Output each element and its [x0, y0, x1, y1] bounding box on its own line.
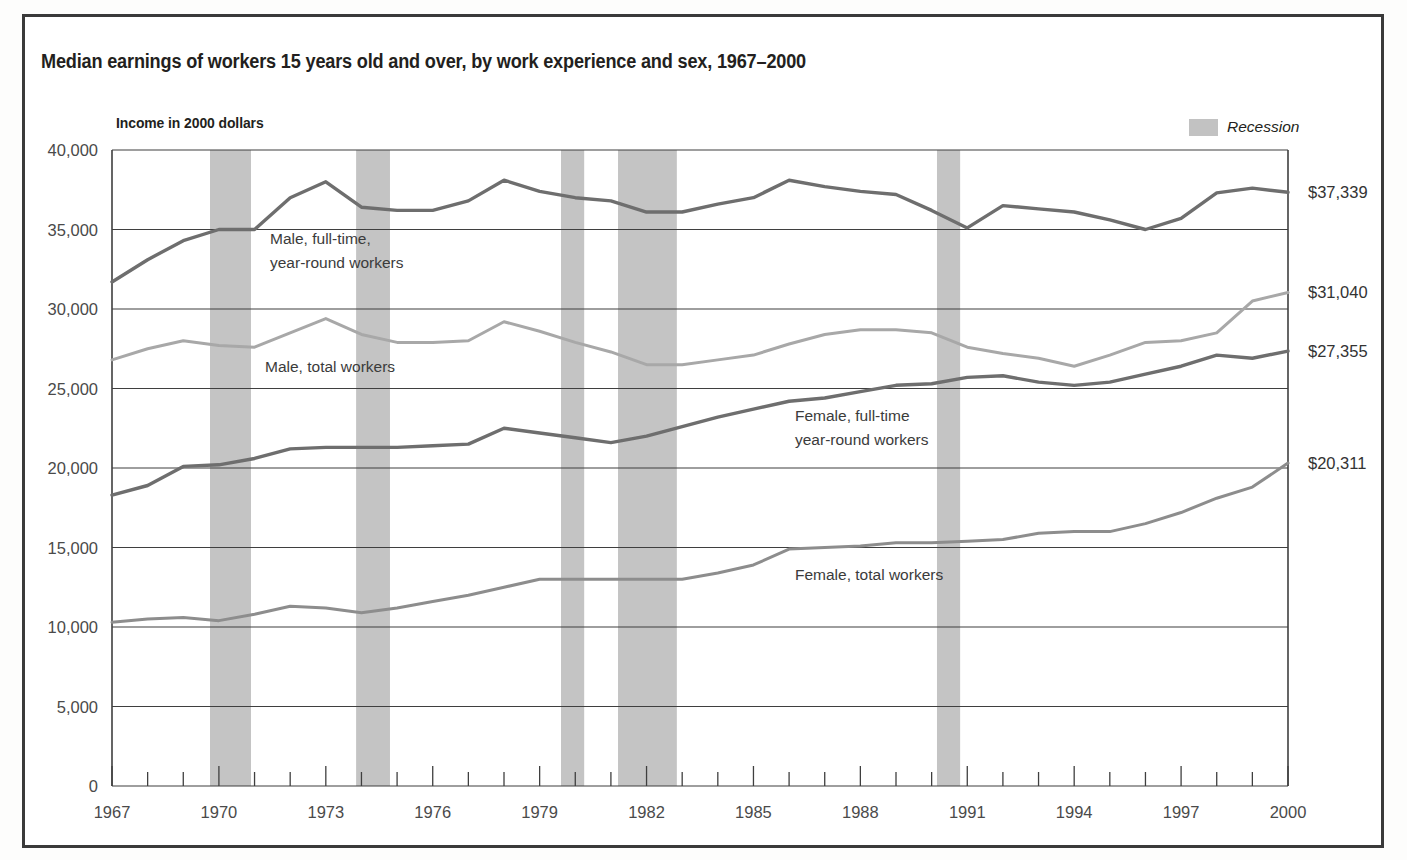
y-axis-labels: 40,00035,00030,00025,00020,00015,00010,0… [48, 141, 98, 795]
x-axis-tick-label: 2000 [1270, 803, 1307, 821]
x-axis-tick-label: 1979 [521, 803, 558, 821]
x-axis-tick-label: 1994 [1056, 803, 1093, 821]
y-axis-tick-label: 10,000 [48, 618, 98, 636]
x-axis-tick-label: 1982 [628, 803, 665, 821]
earnings-line-chart: 40,00035,00030,00025,00020,00015,00010,0… [0, 0, 1407, 860]
series-end-value-label: $27,355 [1308, 342, 1368, 360]
x-tickmarks [112, 766, 1288, 786]
x-axis-tick-label: 1973 [307, 803, 344, 821]
female-total-annotation: Female, total workers [795, 566, 943, 583]
x-axis-labels: 1967197019731976197919821985198819911994… [94, 803, 1307, 821]
y-axis-tick-label: 5,000 [57, 698, 98, 716]
figure-page: Median earnings of workers 15 years old … [0, 0, 1407, 860]
x-axis-tick-label: 1967 [94, 803, 131, 821]
series-end-value-label: $37,339 [1308, 183, 1368, 201]
x-axis-tick-label: 1976 [414, 803, 451, 821]
series-end-value-label: $20,311 [1308, 454, 1366, 472]
y-axis-tick-label: 40,000 [48, 141, 98, 159]
series-end-value-label: $31,040 [1308, 283, 1368, 301]
y-axis-tick-label: 25,000 [48, 380, 98, 398]
y-axis-tick-label: 30,000 [48, 300, 98, 318]
x-axis-tick-label: 1997 [1163, 803, 1200, 821]
x-axis-tick-label: 1991 [949, 803, 986, 821]
y-axis-tick-label: 35,000 [48, 221, 98, 239]
female-full-time-annotation: Female, full-timeyear-round workers [795, 407, 929, 448]
x-axis-tick-label: 1970 [201, 803, 238, 821]
male-total-annotation: Male, total workers [265, 358, 395, 375]
series-line [112, 292, 1288, 366]
y-axis-tick-label: 15,000 [48, 539, 98, 557]
y-axis-tick-label: 20,000 [48, 459, 98, 477]
series-line [112, 463, 1288, 622]
y-axis-tick-label: 0 [89, 777, 98, 795]
x-axis-tick-label: 1988 [842, 803, 879, 821]
x-axis-tick-label: 1985 [735, 803, 772, 821]
series-end-value-labels: $37,339$31,040$27,355$20,311 [1308, 183, 1368, 472]
